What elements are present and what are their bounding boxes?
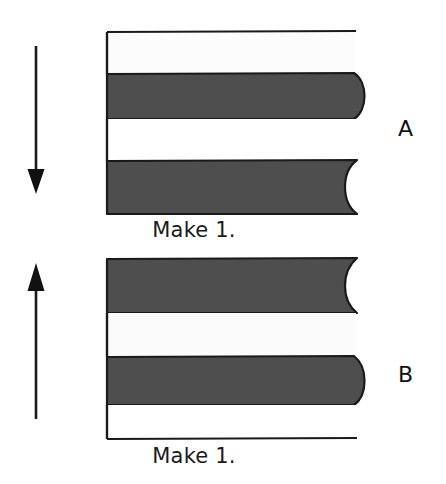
panel-b: Make 1. B bbox=[0, 242, 446, 484]
strip-dark-concave-1 bbox=[107, 160, 357, 214]
strip-dark-convex-2 bbox=[107, 356, 365, 405]
diagram-b-graphic bbox=[8, 247, 388, 459]
strip-dark-concave-2 bbox=[107, 258, 357, 313]
down-arrow-icon bbox=[28, 46, 45, 194]
strip-light-3 bbox=[107, 313, 356, 357]
strip-dark-convex-1 bbox=[107, 73, 365, 119]
strip-light-2 bbox=[107, 119, 356, 161]
strip-light-4 bbox=[107, 405, 357, 439]
strip-light-1 bbox=[107, 31, 356, 74]
diagram-page: Make 1. A bbox=[0, 0, 446, 484]
panel-a-caption: Make 1. bbox=[0, 218, 388, 242]
panel-a: Make 1. A bbox=[0, 0, 446, 250]
diagram-a-graphic bbox=[8, 24, 388, 236]
panel-b-caption: Make 1. bbox=[0, 444, 388, 468]
panel-b-label: B bbox=[398, 362, 413, 387]
panel-a-label: A bbox=[398, 116, 413, 141]
up-arrow-icon bbox=[28, 263, 45, 419]
